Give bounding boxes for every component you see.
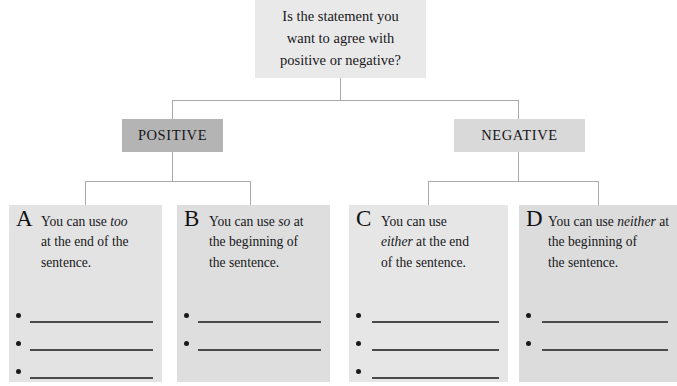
answer-card-d-blanks (526, 296, 668, 352)
answer-card-d-letter: D (526, 207, 543, 230)
blank-row[interactable] (184, 296, 321, 324)
answer-card-a-line-2: at the end of the (41, 232, 153, 252)
question-line-3: positive or negative? (280, 50, 401, 72)
answer-card-d-text: D You can use neither at the beginning o… (526, 212, 668, 273)
connector-to-positive (172, 100, 173, 119)
question-line-2: want to agree with (287, 28, 395, 50)
answer-card-d-line-2: the beginning of (548, 232, 668, 252)
connector-to-card-a (85, 181, 86, 205)
answer-card-b-line-3: the sentence. (209, 253, 321, 273)
answer-card-a-letter: A (16, 207, 33, 230)
bullet-icon (356, 369, 361, 374)
blank-rule[interactable] (198, 321, 321, 323)
blank-rule[interactable] (542, 321, 668, 323)
blank-row[interactable] (16, 324, 153, 352)
connector-to-card-d (598, 181, 599, 205)
answer-card-c-blanks (356, 296, 499, 380)
connector-to-negative (518, 100, 519, 119)
connector-question-crossbar (172, 100, 519, 101)
answer-card-c-line-2: either at the end (381, 232, 499, 252)
blank-row[interactable] (526, 324, 668, 352)
bullet-icon (526, 341, 531, 346)
answer-card-b-line-1: You can use so at (209, 212, 321, 232)
blank-row[interactable] (356, 296, 499, 324)
connector-positive-stem (172, 152, 173, 181)
answer-card-c-line-3: of the sentence. (381, 253, 499, 273)
blank-rule[interactable] (372, 321, 499, 323)
bullet-icon (16, 369, 21, 374)
answer-card-d[interactable]: D You can use neither at the beginning o… (519, 205, 677, 382)
answer-card-c-line-1: You can use (381, 212, 499, 232)
connector-to-card-b (250, 181, 251, 205)
answer-card-a-text: A You can use too at the end of the sent… (16, 212, 153, 273)
blank-row[interactable] (184, 324, 321, 352)
answer-card-b-line-2: the beginning of (209, 232, 321, 252)
blank-row[interactable] (356, 324, 499, 352)
blank-rule[interactable] (372, 377, 499, 379)
blank-rule[interactable] (198, 349, 321, 351)
connector-to-card-c (428, 181, 429, 205)
answer-card-b[interactable]: B You can use so at the beginning of the… (177, 205, 330, 382)
bullet-icon (184, 341, 189, 346)
branch-label-negative[interactable]: NEGATIVE (454, 119, 585, 152)
decision-tree-diagram: Is the statement you want to agree with … (0, 0, 677, 386)
answer-card-c[interactable]: C You can use either at the end of the s… (349, 205, 508, 382)
bullet-icon (356, 313, 361, 318)
connector-negative-stem (518, 152, 519, 181)
blank-row[interactable] (356, 352, 499, 380)
bullet-icon (16, 341, 21, 346)
connector-negative-crossbar (428, 181, 598, 182)
question-box: Is the statement you want to agree with … (255, 0, 426, 78)
answer-card-c-text: C You can use either at the end of the s… (356, 212, 499, 273)
answer-card-a[interactable]: A You can use too at the end of the sent… (9, 205, 162, 382)
answer-card-d-line-3: the sentence. (548, 253, 668, 273)
blank-row[interactable] (16, 296, 153, 324)
answer-card-b-text: B You can use so at the beginning of the… (184, 212, 321, 273)
answer-card-c-letter: C (356, 207, 371, 230)
answer-card-b-letter: B (184, 207, 199, 230)
answer-card-a-blanks (16, 296, 153, 380)
blank-row[interactable] (16, 352, 153, 380)
answer-card-a-line-1: You can use too (41, 212, 153, 232)
branch-label-positive[interactable]: POSITIVE (122, 119, 223, 152)
blank-rule[interactable] (30, 377, 153, 379)
connector-positive-crossbar (85, 181, 251, 182)
question-line-1: Is the statement you (282, 6, 398, 28)
bullet-icon (16, 313, 21, 318)
blank-rule[interactable] (30, 321, 153, 323)
blank-rule[interactable] (372, 349, 499, 351)
answer-card-b-blanks (184, 296, 321, 352)
bullet-icon (526, 313, 531, 318)
answer-card-d-line-1: You can use neither at (548, 212, 668, 232)
connector-question-stem (340, 78, 341, 101)
bullet-icon (184, 313, 189, 318)
answer-card-a-line-3: sentence. (41, 253, 153, 273)
bullet-icon (356, 341, 361, 346)
blank-row[interactable] (526, 296, 668, 324)
blank-rule[interactable] (542, 349, 668, 351)
blank-rule[interactable] (30, 349, 153, 351)
